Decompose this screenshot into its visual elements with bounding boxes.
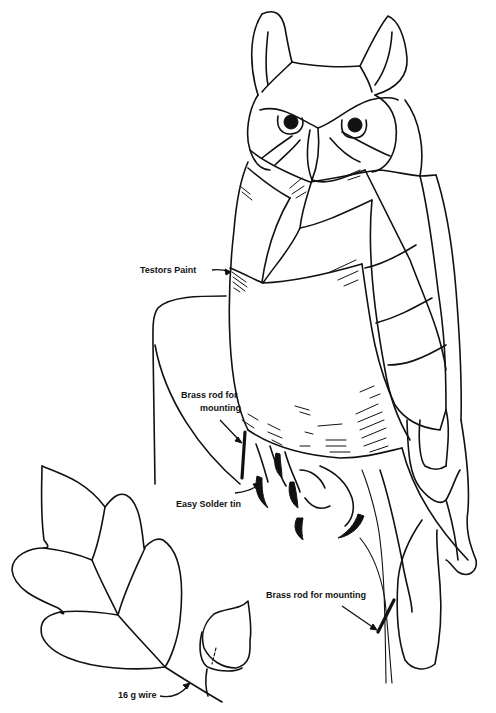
owl — [229, 12, 476, 683]
talon — [289, 482, 298, 508]
label-easy-solder-tin: Easy Solder tin — [176, 499, 241, 509]
beak — [307, 128, 319, 180]
label-testors-paint: Testors Paint — [140, 265, 196, 275]
talon — [275, 453, 282, 478]
label-brass-rod-body-line2: mounting — [200, 403, 241, 413]
label-brass-rod-tail: Brass rod for mounting — [266, 590, 366, 600]
label-brass-rod-body-line1: Brass rod for — [181, 390, 238, 400]
owl-pattern-diagram: Testors Paint Brass rod for mounting Eas… — [0, 0, 496, 713]
right-ear — [360, 16, 407, 95]
acorn — [200, 601, 251, 696]
talon — [256, 476, 268, 508]
hatch-marks — [232, 170, 388, 452]
right-eye-pupil — [348, 118, 362, 132]
talon — [295, 518, 303, 540]
brass-rod-body — [242, 432, 245, 478]
left-eye-pupil — [284, 115, 298, 129]
label-16g-wire: 16 g wire — [118, 690, 157, 700]
left-ear — [252, 12, 292, 95]
